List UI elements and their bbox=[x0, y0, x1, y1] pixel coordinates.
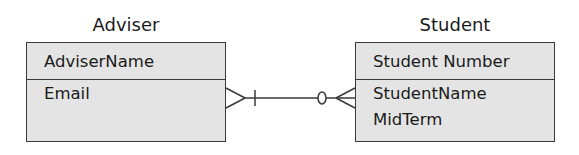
adviser-entity-box: AdviserName Email bbox=[26, 42, 226, 142]
adviser-entity-title: Adviser bbox=[26, 14, 226, 36]
student-key-section: Student Number bbox=[356, 43, 554, 80]
adviser-key-attribute: AdviserName bbox=[44, 51, 154, 73]
adviser-key-section: AdviserName bbox=[27, 43, 225, 80]
student-entity-title: Student bbox=[355, 14, 555, 36]
adviser-attribute-email: Email bbox=[44, 83, 90, 105]
student-attribute-studentname: StudentName bbox=[373, 83, 487, 105]
crows-foot-many-icon-adviser-side bbox=[226, 88, 245, 108]
student-entity-box: Student Number StudentName MidTerm bbox=[355, 42, 555, 142]
circle-zero-icon bbox=[318, 92, 326, 104]
student-attribute-midterm: MidTerm bbox=[373, 109, 442, 131]
crows-foot-many-icon-student-side bbox=[336, 88, 355, 108]
student-key-attribute: Student Number bbox=[373, 51, 509, 73]
